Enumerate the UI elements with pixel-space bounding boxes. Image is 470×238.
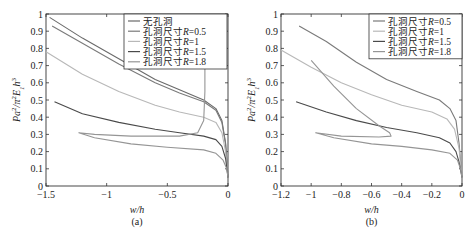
y-tick-label: 0.7 bbox=[266, 60, 279, 71]
legend-entry: 无孔洞 bbox=[143, 17, 173, 27]
x-tick-label: −0.8 bbox=[332, 189, 350, 200]
series-line bbox=[311, 60, 462, 177]
y-axis-label: Pa2/π2E1h3 bbox=[245, 77, 261, 123]
y-tick-label: 1 bbox=[273, 9, 278, 20]
y-tick-label: 0.8 bbox=[266, 43, 279, 54]
legend-entry: 孔洞尺寸R=0.5 bbox=[143, 26, 206, 37]
y-tick-label: 0.5 bbox=[31, 95, 44, 106]
x-tick-label: 0 bbox=[460, 189, 465, 200]
legend-entry: 孔洞尺寸R=1.8 bbox=[143, 56, 206, 67]
x-tick-label: −1 bbox=[101, 189, 112, 200]
y-tick-label: 0.5 bbox=[266, 95, 279, 106]
legend-entry: 孔洞尺寸R=1.5 bbox=[388, 36, 451, 47]
x-tick-label: −0.5 bbox=[158, 189, 176, 200]
series-line bbox=[55, 102, 229, 178]
y-tick-label: 0.9 bbox=[31, 26, 44, 37]
x-tick-label: −0.2 bbox=[423, 189, 441, 200]
panel-caption: (a) bbox=[131, 216, 142, 228]
y-tick-label: 0.9 bbox=[266, 26, 279, 37]
x-tick-label: −0.6 bbox=[362, 189, 380, 200]
x-tick-label: 0 bbox=[226, 189, 231, 200]
panel-caption: (b) bbox=[366, 216, 378, 228]
x-tick-label: −1.2 bbox=[272, 189, 290, 200]
figure: 00.10.20.30.40.50.60.70.80.91−1.5−1−0.50… bbox=[0, 0, 470, 238]
y-tick-label: 0.1 bbox=[31, 163, 44, 174]
y-tick-label: 0.8 bbox=[31, 43, 44, 54]
series-line bbox=[296, 102, 462, 178]
panel-b-chart: 00.10.20.30.40.50.60.70.80.91−1.2−1−0.8−… bbox=[245, 9, 465, 229]
y-tick-label: 0.4 bbox=[266, 112, 279, 123]
y-tick-label: 0.3 bbox=[31, 129, 44, 140]
legend-entry: 孔洞尺寸R=1 bbox=[143, 36, 199, 47]
legend: 孔洞尺寸R=0.5孔洞尺寸R=1孔洞尺寸R=1.5孔洞尺寸R=1.8 bbox=[369, 14, 462, 59]
legend-entry: 孔洞尺寸R=1.8 bbox=[388, 46, 451, 57]
y-axis-label: Pa2/π2E1h3 bbox=[10, 77, 26, 123]
series-line bbox=[79, 62, 228, 177]
y-tick-label: 0.4 bbox=[31, 112, 44, 123]
y-tick-label: 0.2 bbox=[31, 146, 44, 157]
series-line bbox=[46, 52, 228, 178]
y-tick-label: 0.3 bbox=[266, 129, 279, 140]
x-axis-label: w/h bbox=[130, 204, 144, 215]
x-tick-label: −1 bbox=[306, 189, 317, 200]
series-line bbox=[281, 50, 462, 177]
y-tick-label: 1 bbox=[38, 9, 43, 20]
y-tick-label: 0.1 bbox=[266, 163, 279, 174]
x-tick-label: −0.4 bbox=[393, 189, 411, 200]
legend-entry: 孔洞尺寸R=0.5 bbox=[388, 16, 451, 27]
y-tick-label: 0.7 bbox=[31, 60, 44, 71]
legend-entry: 孔洞尺寸R=1 bbox=[388, 26, 444, 37]
x-axis-label: w/h bbox=[364, 204, 378, 215]
panel-a-chart: 00.10.20.30.40.50.60.70.80.91−1.5−1−0.50… bbox=[10, 9, 231, 229]
legend-entry: 孔洞尺寸R=1.5 bbox=[143, 46, 206, 57]
y-tick-label: 0.6 bbox=[266, 77, 279, 88]
x-tick-label: −1.5 bbox=[37, 189, 55, 200]
y-tick-label: 0.6 bbox=[31, 77, 44, 88]
legend: 无孔洞孔洞尺寸R=0.5孔洞尺寸R=1孔洞尺寸R=1.5孔洞尺寸R=1.8 bbox=[124, 14, 227, 69]
y-tick-label: 0.2 bbox=[266, 146, 279, 157]
